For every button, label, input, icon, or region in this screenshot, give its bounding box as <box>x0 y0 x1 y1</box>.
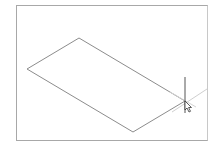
drawing-canvas[interactable] <box>0 0 219 155</box>
parallelogram-shape[interactable] <box>27 38 185 132</box>
